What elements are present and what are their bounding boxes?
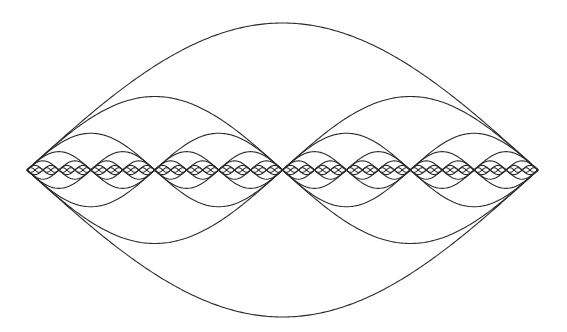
envelope-level-7-lower xyxy=(27,170,538,172)
envelope-level-3-lower xyxy=(27,170,538,207)
envelope-level-1-upper xyxy=(27,23,538,170)
envelope-level-3-upper xyxy=(27,133,538,170)
harmonic-envelope-diagram xyxy=(0,0,567,332)
envelope-level-5-upper xyxy=(27,161,538,170)
envelope-level-5-lower xyxy=(27,170,538,179)
envelope-level-1-lower xyxy=(27,170,538,317)
envelope-level-7-upper xyxy=(27,168,538,170)
envelope-curves xyxy=(27,23,538,317)
